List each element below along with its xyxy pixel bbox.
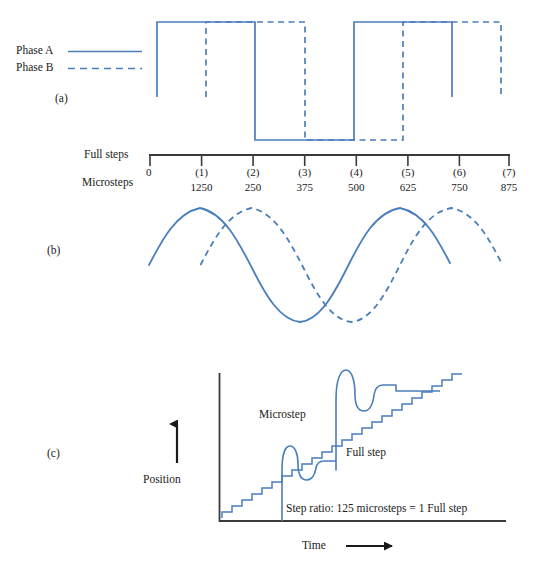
full-step-tick-label-7: (7) [495, 167, 523, 178]
full-step-tick-label-4: (4) [342, 167, 370, 178]
full-step-tick-label-3: (3) [291, 167, 319, 178]
full-step-tick-label-1: (1) [188, 167, 216, 178]
phase-a-sine-wave [149, 208, 450, 322]
panel-a-waveforms [157, 22, 501, 140]
figure-canvas: Phase A Phase B (a) (b) (c) Full steps M… [0, 0, 534, 570]
figure-graphics [0, 0, 534, 570]
full-steps-row-label: Full steps [84, 149, 128, 161]
microsteps-row-label: Microsteps [82, 177, 133, 189]
legend-phase-b-label: Phase B [16, 62, 53, 74]
microstep-tick-label-3: 375 [288, 182, 322, 193]
panel-c-x-axis-label: Time [302, 540, 326, 552]
microstep-tick-label-2: 250 [236, 182, 270, 193]
step-ratio-note: Step ratio: 125 microsteps = 1 Full step [286, 503, 467, 515]
panel-c-microstep-staircase [222, 374, 462, 518]
full-step-annotation-label: Full step [346, 447, 386, 459]
legend-phase-a-label: Phase A [16, 45, 53, 57]
legend-swatches [68, 52, 142, 69]
scale-origin-label: 0 [146, 167, 152, 178]
microstep-tick-label-6: 750 [442, 182, 476, 193]
full-step-tick-label-6: (6) [445, 167, 473, 178]
panel-c-y-axis-label: Position [143, 474, 181, 486]
microstep-tick-label-7: 875 [492, 182, 526, 193]
panel-b-waveforms [149, 208, 502, 322]
microstep-tick-label-1: 1250 [185, 182, 219, 193]
phase-b-sine-wave [201, 208, 502, 322]
microstep-staircase-path [222, 374, 462, 518]
panel-c-letter: (c) [47, 448, 60, 460]
full-step-tick-label-5: (5) [394, 167, 422, 178]
microstep-tick-label-5: 625 [391, 182, 425, 193]
panel-c-axis-arrows [177, 424, 392, 546]
panel-b-letter: (b) [47, 245, 60, 257]
microstep-tick-label-4: 500 [339, 182, 373, 193]
full-step-scale-axis [149, 155, 510, 166]
microstep-annotation-label: Microstep [259, 409, 306, 421]
panel-a-letter: (a) [55, 93, 68, 105]
full-step-tick-label-2: (2) [239, 167, 267, 178]
